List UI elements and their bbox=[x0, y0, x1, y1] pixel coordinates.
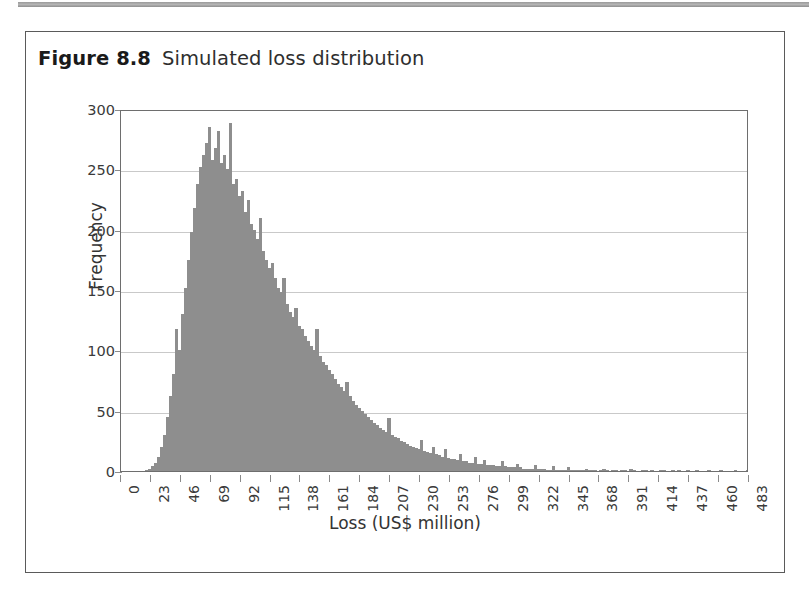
x-axis-tick-label: 207 bbox=[395, 485, 411, 512]
histogram-bar bbox=[686, 470, 689, 471]
x-axis-tick-label: 161 bbox=[335, 485, 351, 512]
x-axis-tick-mark bbox=[180, 475, 181, 482]
histogram-bar bbox=[746, 470, 747, 471]
x-axis-tick-mark bbox=[658, 475, 659, 482]
histogram-bar bbox=[677, 470, 680, 471]
x-axis-tick-label: 184 bbox=[365, 485, 381, 512]
y-axis-tick-label: 50 bbox=[67, 404, 115, 420]
x-axis-tick-mark bbox=[479, 475, 480, 482]
x-axis-tick-mark bbox=[598, 475, 599, 482]
x-axis-tick-mark bbox=[120, 475, 121, 482]
plot-area bbox=[120, 110, 748, 472]
x-axis-tick-label: 92 bbox=[246, 485, 262, 503]
histogram-bar bbox=[734, 470, 737, 471]
x-axis-tick-mark bbox=[240, 475, 241, 482]
x-axis-tick-label: 322 bbox=[545, 485, 561, 512]
page-top-rule bbox=[18, 2, 809, 7]
x-axis-tick-label: 460 bbox=[724, 485, 740, 512]
histogram-bar bbox=[662, 470, 665, 471]
x-axis-tick-mark bbox=[210, 475, 211, 482]
histogram-bars bbox=[121, 111, 747, 471]
y-axis-tick-label: 100 bbox=[67, 343, 115, 359]
histogram-bar bbox=[695, 470, 698, 471]
x-axis-tick-label: 69 bbox=[216, 485, 232, 503]
x-axis-tick-mark bbox=[539, 475, 540, 482]
x-axis-tick-mark bbox=[569, 475, 570, 482]
histogram-bar bbox=[623, 470, 626, 471]
y-axis-tick-label: 150 bbox=[67, 283, 115, 299]
x-axis-tick-label: 23 bbox=[156, 485, 172, 503]
histogram-bar bbox=[671, 470, 674, 471]
x-axis-tick-mark bbox=[718, 475, 719, 482]
histogram-chart: Frequency 050100150200250300 02346699211… bbox=[25, 31, 785, 573]
x-axis-tick-label: 115 bbox=[276, 485, 292, 512]
x-axis-tick-label: 230 bbox=[425, 485, 441, 512]
x-axis-tick-label: 253 bbox=[455, 485, 471, 512]
x-axis-tick-mark bbox=[449, 475, 450, 482]
x-axis-tick-label: 414 bbox=[664, 485, 680, 512]
histogram-bar bbox=[614, 470, 617, 471]
y-axis-tick-labels: 050100150200250300 bbox=[63, 110, 115, 472]
histogram-bar bbox=[719, 470, 722, 471]
histogram-bar bbox=[707, 470, 710, 471]
x-axis-tick-label: 345 bbox=[575, 485, 591, 512]
y-axis-tick-label: 0 bbox=[67, 464, 115, 480]
x-axis-tick-label: 391 bbox=[634, 485, 650, 512]
x-axis-tick-label: 138 bbox=[305, 485, 321, 512]
x-axis-tick-mark bbox=[359, 475, 360, 482]
y-axis-tick-mark bbox=[115, 472, 122, 473]
x-axis-tick-mark bbox=[419, 475, 420, 482]
y-axis-tick-label: 300 bbox=[67, 102, 115, 118]
x-axis-tick-mark bbox=[748, 475, 749, 482]
histogram-bar bbox=[644, 470, 647, 471]
x-axis-tick-label: 0 bbox=[126, 485, 142, 494]
x-axis-tick-label: 46 bbox=[186, 485, 202, 503]
histogram-bar bbox=[632, 470, 635, 471]
x-axis-tick-mark bbox=[150, 475, 151, 482]
histogram-bar bbox=[650, 470, 653, 471]
x-axis-tick-mark bbox=[628, 475, 629, 482]
x-axis-tick-mark bbox=[299, 475, 300, 482]
x-axis-tick-mark bbox=[329, 475, 330, 482]
histogram-bar bbox=[605, 470, 608, 471]
x-axis-title: Loss (US$ million) bbox=[25, 513, 785, 533]
x-axis-tick-label: 368 bbox=[604, 485, 620, 512]
y-axis-tick-label: 200 bbox=[67, 223, 115, 239]
x-axis-tick-mark bbox=[509, 475, 510, 482]
x-axis-tick-label: 276 bbox=[485, 485, 501, 512]
x-axis-tick-label: 299 bbox=[515, 485, 531, 512]
x-axis-tick-label: 437 bbox=[694, 485, 710, 512]
y-axis-tick-label: 250 bbox=[67, 162, 115, 178]
x-axis-tick-mark bbox=[389, 475, 390, 482]
x-axis-tick-mark bbox=[270, 475, 271, 482]
histogram-bar bbox=[593, 470, 596, 471]
x-axis-tick-mark bbox=[688, 475, 689, 482]
x-axis-tick-label: 483 bbox=[754, 485, 770, 512]
